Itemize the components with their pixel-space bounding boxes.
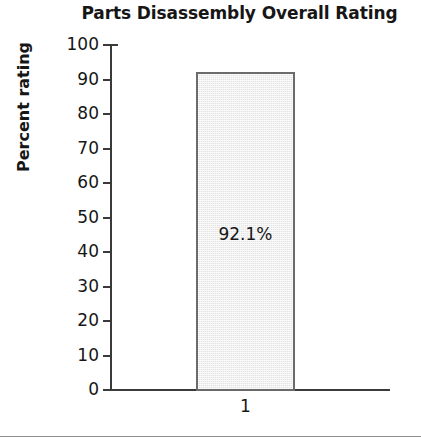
bar-chart: Parts Disassembly Overall Rating Percent… [0,0,421,447]
y-axis-tick-label: 20 [43,312,99,329]
y-axis-tick-mark [103,217,112,219]
y-axis-tick-mark [103,355,112,357]
y-axis-title: Percent rating [14,0,33,172]
y-axis-tick-mark [103,148,112,150]
y-axis-tick-mark [103,44,118,46]
y-axis-tick-mark [103,182,112,184]
y-axis-tick-label: 50 [43,209,99,226]
y-axis-tick-label: 40 [43,243,99,260]
y-axis-tick-mark [103,251,112,253]
page-divider-rule [0,436,421,437]
y-axis-tick-label: 30 [43,278,99,295]
y-axis-tick-mark [103,389,112,391]
y-axis-tick-label: 100 [43,36,99,53]
y-axis-tick-mark [103,286,112,288]
y-axis-tick-label: 90 [43,71,99,88]
y-axis-tick-label: 70 [43,140,99,157]
y-axis-tick-label: 60 [43,174,99,191]
y-axis-tick-mark [103,113,112,115]
y-axis-tick-mark [103,79,112,81]
bar-value-label: 92.1% [196,224,295,244]
x-axis-category-label: 1 [196,396,295,416]
y-axis-tick-mark [103,320,112,322]
chart-title: Parts Disassembly Overall Rating [0,3,421,23]
y-axis-tick-label: 10 [43,347,99,364]
y-axis-tick-label: 0 [43,381,99,398]
y-axis-tick-label: 80 [43,105,99,122]
